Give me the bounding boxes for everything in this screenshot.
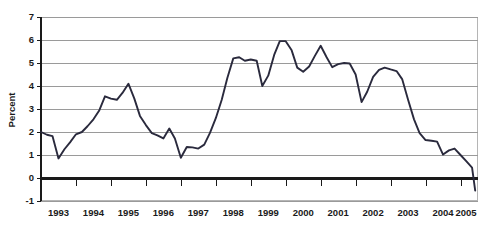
y-axis-tick-label: 7 [29,11,34,22]
y-axis-tick-label: 4 [29,80,35,91]
y-axis-tick-label: 0 [29,172,34,183]
x-axis-tick-label: 2002 [363,207,384,218]
chart-container: -101234567 Percent 199319941995199619971… [0,0,496,237]
x-axis-labels: 1993199419951996199719981999200020012002… [48,207,477,218]
y-axis-tick-label: 1 [29,149,35,160]
x-axis-tick-label: 1996 [153,207,174,218]
x-axis-tick-label: 1994 [83,207,105,218]
x-axis-tick-label: 1999 [258,207,279,218]
x-axis-tick-label: 2004 [432,207,454,218]
x-axis-tick-label: 1997 [188,207,209,218]
y-axis-labels: -101234567 [26,11,35,206]
x-axis-tick-label: 2005 [455,207,477,218]
y-axis-tick-label: 6 [29,34,34,45]
line-chart: -101234567 Percent 199319941995199619971… [0,0,496,237]
x-axis-tick-label: 2001 [328,207,350,218]
x-axis-tick-label: 2000 [293,207,314,218]
y-axis-tick-label: 2 [29,126,34,137]
x-axis-tick-label: 2003 [398,207,419,218]
y-axis-tick-label: -1 [26,195,35,206]
y-axis-tick-label: 5 [29,57,35,68]
x-axis-tick-label: 1998 [223,207,244,218]
x-axis-tick-label: 1995 [118,207,140,218]
y-axis-title: Percent [6,92,17,128]
x-axis-tick-label: 1993 [48,207,69,218]
y-axis-tick-label: 3 [29,103,34,114]
